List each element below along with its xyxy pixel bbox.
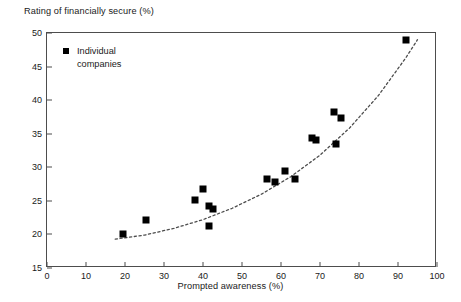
x-tick-label-10: 10 <box>81 272 91 281</box>
filled-square-marker-icon <box>63 48 69 54</box>
x-tick-mark <box>203 262 204 267</box>
x-tick-mark <box>437 262 438 267</box>
x-axis-title: Prompted awareness (%) <box>0 281 461 291</box>
data-point <box>200 186 207 193</box>
y-tick-mark <box>47 100 52 101</box>
x-tick-mark <box>47 262 48 267</box>
x-tick-label-100: 100 <box>429 272 444 281</box>
y-tick-label-50: 50 <box>32 29 42 38</box>
y-tick-mark <box>47 234 52 235</box>
y-tick-label-35: 35 <box>32 129 42 138</box>
x-tick-label-30: 30 <box>159 272 169 281</box>
legend: Individual companies <box>63 45 121 70</box>
data-point <box>120 230 127 237</box>
x-tick-label-70: 70 <box>315 272 325 281</box>
y-tick-mark <box>47 268 52 269</box>
data-point <box>192 196 199 203</box>
x-tick-mark <box>359 262 360 267</box>
x-tick-mark <box>398 262 399 267</box>
y-axis-title: Rating of financially secure (%) <box>24 6 154 16</box>
y-tick-mark <box>47 33 52 34</box>
x-tick-mark <box>125 262 126 267</box>
y-tick-mark <box>47 133 52 134</box>
data-point <box>402 36 409 43</box>
x-tick-label-80: 80 <box>354 272 364 281</box>
x-tick-label-50: 50 <box>237 272 247 281</box>
y-tick-label-15: 15 <box>32 264 42 273</box>
data-point <box>264 175 271 182</box>
x-tick-label-60: 60 <box>276 272 286 281</box>
y-tick-mark <box>47 200 52 201</box>
x-tick-label-90: 90 <box>393 272 403 281</box>
data-point <box>143 216 150 223</box>
y-tick-mark <box>47 66 52 67</box>
data-point <box>209 205 216 212</box>
y-tick-mark <box>47 167 52 168</box>
x-tick-label-40: 40 <box>198 272 208 281</box>
data-point <box>272 179 279 186</box>
y-tick-label-20: 20 <box>32 230 42 239</box>
x-tick-mark <box>164 262 165 267</box>
x-tick-mark <box>86 262 87 267</box>
x-tick-label-0: 0 <box>44 272 49 281</box>
legend-label: Individual companies <box>77 45 121 70</box>
data-point <box>205 223 212 230</box>
y-tick-label-40: 40 <box>32 96 42 105</box>
x-tick-mark <box>320 262 321 267</box>
x-tick-mark <box>242 262 243 267</box>
plot-area: 1520253035404550 0102030405060708090100 … <box>46 32 436 267</box>
y-tick-label-25: 25 <box>32 196 42 205</box>
data-point <box>332 141 339 148</box>
data-point <box>281 168 288 175</box>
x-tick-label-20: 20 <box>120 272 130 281</box>
data-point <box>313 137 320 144</box>
y-tick-label-30: 30 <box>32 163 42 172</box>
x-tick-mark <box>281 262 282 267</box>
data-point <box>330 108 337 115</box>
data-point <box>291 175 298 182</box>
data-point <box>338 114 345 121</box>
scatter-chart: Rating of financially secure (%) 1520253… <box>0 0 461 302</box>
y-tick-label-45: 45 <box>32 62 42 71</box>
